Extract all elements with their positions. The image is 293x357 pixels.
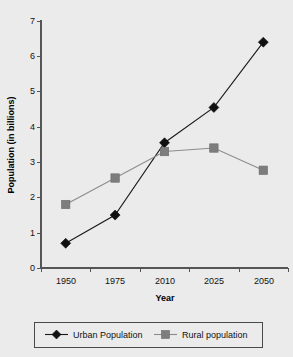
y-tick-label-0: 0 (30, 263, 35, 273)
legend-entry-rural[interactable]: Rural population (154, 330, 248, 340)
x-tick-label-2025: 2025 (204, 276, 224, 286)
chart-canvas: Population (in billions) 7 6 5 4 3 2 1 0 (0, 0, 293, 357)
y-tick-label-7: 7 (30, 16, 35, 26)
y-tick-marks (37, 21, 41, 268)
square-marker-icon (162, 331, 170, 339)
y-tick-label-4: 4 (30, 122, 35, 132)
series-urban (61, 37, 269, 248)
series-line (66, 148, 264, 204)
y-tick-label-1: 1 (30, 228, 35, 238)
square-marker-icon (259, 166, 267, 174)
x-axis-label: Year (155, 293, 175, 303)
diamond-marker-icon (160, 138, 170, 148)
diamond-marker-icon (209, 102, 219, 112)
x-tick-label-2010: 2010 (155, 276, 175, 286)
square-marker-icon (160, 147, 168, 155)
x-tick-label-1975: 1975 (105, 276, 125, 286)
y-tick-label-2: 2 (30, 192, 35, 202)
population-line-chart: Population (in billions) 7 6 5 4 3 2 1 0 (0, 0, 293, 357)
y-tick-label-3: 3 (30, 157, 35, 167)
y-axis-label: Population (in billions) (6, 97, 16, 194)
x-tick-label-1950: 1950 (56, 276, 76, 286)
y-tick-label-5: 5 (30, 86, 35, 96)
plot-series-layer (61, 37, 269, 248)
diamond-marker-icon (61, 238, 71, 248)
square-marker-icon (111, 174, 119, 182)
square-marker-icon (210, 144, 218, 152)
y-tick-label-6: 6 (30, 51, 35, 61)
diamond-marker-icon (258, 37, 268, 47)
legend-label-urban: Urban Population (73, 330, 143, 340)
series-rural (62, 144, 268, 209)
x-tick-marks (41, 268, 288, 272)
legend-label-rural: Rural population (182, 330, 248, 340)
square-marker-icon (62, 200, 70, 208)
diamond-marker-icon (110, 210, 120, 220)
x-tick-label-2050: 2050 (254, 276, 274, 286)
